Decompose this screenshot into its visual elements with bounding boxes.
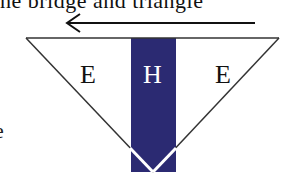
left-arrow-icon	[67, 14, 255, 32]
center-band	[131, 38, 176, 172]
region-label-center: H	[143, 62, 162, 88]
region-label-left: E	[80, 62, 96, 88]
diagram-canvas	[0, 0, 281, 177]
region-label-right: E	[215, 62, 231, 88]
